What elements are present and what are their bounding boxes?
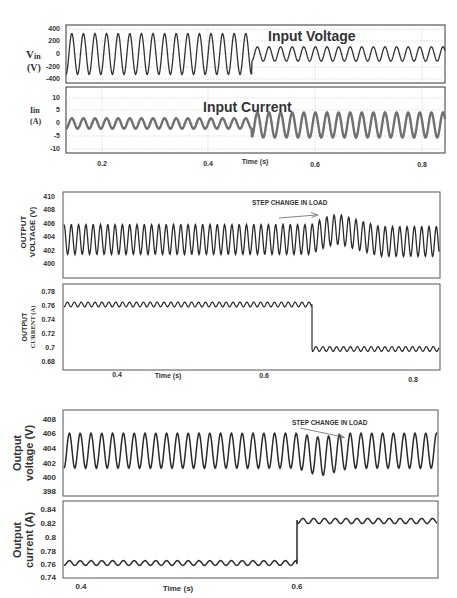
vin-title: Input Voltage [268, 28, 356, 44]
fig2-vout-ytick: 410 [43, 193, 55, 200]
fig2-iout-ylabel: OUTPUT CURRENT (A) [21, 306, 37, 349]
fig2-iout-ytick: 0.68 [41, 358, 55, 365]
vin-ytick: 0 [56, 50, 60, 57]
fig3-vout-ytick: 404 [43, 444, 57, 453]
fig2-iout-frame [63, 284, 440, 370]
iin-ytick: 5 [56, 106, 60, 113]
fig2-output-voltage-plot: 410 408 406 404 402 400 OUTPUT VOLTAGE (… [19, 192, 440, 278]
fig3-vout-ytick: 400 [43, 473, 57, 482]
fig2-iout-ytick: 0.72 [41, 330, 55, 337]
iin-yticks: 10 5 0 -5 -10 [50, 94, 60, 152]
vin-ytick: -400 [46, 75, 60, 82]
fig2-xtick: 0.8 [408, 376, 418, 383]
vin-ytick: 400 [48, 25, 60, 32]
fig3-xtick: 0.4 [75, 582, 87, 591]
fig3-xtick: 0.6 [291, 582, 303, 591]
fig2-iout-ytick: 0.78 [41, 288, 55, 295]
fig3-vout-ytick: 398 [43, 487, 57, 496]
fig3-iout-ytick: 0.74 [40, 573, 56, 582]
vin-ylabel: Vin [26, 48, 41, 61]
fig2-xlabel: Time (s) [155, 372, 182, 380]
fig3-output-voltage-plot: 408 406 404 402 400 398 Output voltage (… [11, 410, 438, 496]
fig3-iout-ytick: 0.82 [40, 519, 56, 528]
fig3-vout-ytick: 406 [43, 429, 57, 438]
fig3-iout-ytick: 0.78 [40, 547, 56, 556]
iin-ylabel-unit: (A) [30, 117, 41, 126]
fig1-xlabel: Time (s) [242, 158, 269, 166]
fig1-input-current-plot: Input Current 10 5 0 -5 -10 Iin (A) [30, 87, 445, 153]
vin-ytick: -200 [46, 63, 60, 70]
fig2-vout-yticks: 410 408 406 404 402 400 [43, 193, 55, 267]
fig3-iout-ytick: 0.84 [40, 505, 56, 514]
fig3-iout-ylabel: Output current (A) [11, 512, 35, 569]
fig1-xtick: 0.8 [417, 161, 427, 168]
iin-ytick: -10 [50, 145, 60, 152]
fig2-output-current-plot: 0.78 0.76 0.74 0.72 0.7 0.68 OUTPUT CURR… [21, 284, 440, 370]
fig3-vout-ylabel: Output voltage (V) [11, 425, 35, 482]
fig2-vout-ylabel: OUTPUT VOLTAGE (V) [19, 206, 37, 257]
svg-text:CURRENT (A): CURRENT (A) [29, 306, 37, 349]
fig2-vout-ytick: 402 [43, 247, 55, 254]
iin-ytick: -5 [54, 132, 60, 139]
fig2-iout-ytick: 0.7 [45, 344, 55, 351]
iin-ytick: 10 [52, 94, 60, 101]
svg-text:OUTPUT: OUTPUT [19, 215, 28, 248]
fig2-xtick: 0.6 [259, 372, 269, 379]
fig3-iout-yticks: 0.84 0.82 0.8 0.78 0.76 0.74 [40, 505, 56, 582]
fig3-iout-ytick: 0.8 [45, 533, 57, 542]
fig2-xtick: 0.4 [112, 371, 122, 378]
fig3-xlabel: Time (s) [163, 584, 194, 593]
fig1-input-voltage-plot: Input Voltage 400 200 0 -200 -400 Vin (V… [26, 25, 445, 83]
fig3-vout-ytick: 408 [43, 415, 57, 424]
figure-canvas: Input Voltage 400 200 0 -200 -400 Vin (V… [0, 0, 457, 598]
svg-text:voltage (V): voltage (V) [23, 425, 35, 482]
svg-text:VOLTAGE (V): VOLTAGE (V) [28, 206, 37, 257]
fig2-vout-ytick: 404 [43, 233, 55, 240]
fig2-vout-ytick: 400 [43, 260, 55, 267]
fig3-vout-ytick: 402 [43, 459, 57, 468]
fig2-vout-ytick: 406 [43, 220, 55, 227]
vin-yticks: 400 200 0 -200 -400 [46, 25, 60, 82]
iin-ylabel: Iin [30, 106, 40, 115]
svg-text:Output: Output [11, 522, 23, 558]
fig1-xtick: 0.4 [203, 160, 213, 167]
fig2-iout-ytick: 0.76 [41, 302, 55, 309]
fig2-vout-ytick: 408 [43, 206, 55, 213]
svg-text:Output: Output [11, 435, 23, 471]
fig3-step-annotation: STEP CHANGE IN LOAD [292, 419, 368, 426]
fig2-step-annotation: STEP CHANGE IN LOAD [252, 199, 328, 206]
iin-title: Input Current [203, 99, 292, 115]
svg-text:current (A): current (A) [23, 512, 35, 569]
fig3-output-current-plot: 0.84 0.82 0.8 0.78 0.76 0.74 Output curr… [11, 501, 438, 582]
fig3-vout-yticks: 408 406 404 402 400 398 [43, 415, 57, 496]
iin-ytick: 0 [56, 119, 60, 126]
fig1-xtick: 0.2 [97, 160, 107, 167]
fig3-iout-ytick: 0.76 [40, 560, 56, 569]
fig2-iout-yticks: 0.78 0.76 0.74 0.72 0.7 0.68 [41, 288, 55, 365]
vin-ytick: 200 [48, 37, 60, 44]
fig3-iout-frame [63, 501, 438, 578]
vin-ylabel-unit: (V) [27, 62, 41, 74]
fig1-xtick: 0.6 [310, 161, 320, 168]
fig2-iout-ytick: 0.74 [41, 316, 55, 323]
svg-text:OUTPUT: OUTPUT [21, 312, 28, 342]
